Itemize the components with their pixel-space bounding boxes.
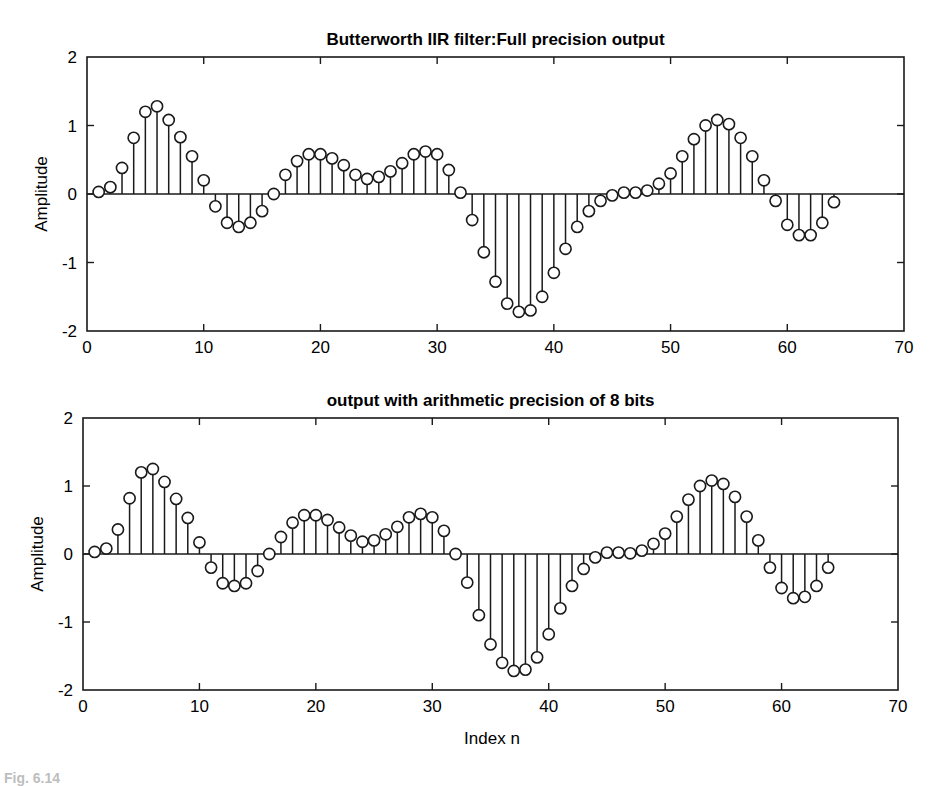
stem-marker: [264, 548, 275, 559]
stem-marker: [660, 528, 671, 539]
stem-marker: [268, 188, 279, 199]
stem-marker: [175, 132, 186, 143]
stem-marker: [729, 491, 740, 502]
stem-marker: [136, 467, 147, 478]
stem-marker: [345, 530, 356, 541]
x-tick-label: 30: [428, 338, 447, 357]
stem-marker: [159, 476, 170, 487]
stem-marker: [140, 106, 151, 117]
y-tick-label: 1: [64, 477, 73, 496]
stem-marker: [618, 187, 629, 198]
stem-marker: [520, 664, 531, 675]
stem-marker: [205, 562, 216, 573]
stem-marker: [245, 217, 256, 228]
x-tick-label: 40: [544, 338, 563, 357]
stem-marker: [198, 175, 209, 186]
y-tick-label: -2: [62, 322, 77, 341]
stem-marker: [782, 219, 793, 230]
x-tick-label: 20: [306, 697, 325, 716]
stem-marker: [630, 187, 641, 198]
stem-marker: [508, 665, 519, 676]
x-tick-label: 10: [194, 338, 213, 357]
stem-marker: [688, 134, 699, 145]
stem-marker: [467, 214, 478, 225]
stem-marker: [147, 463, 158, 474]
stem-marker: [105, 182, 116, 193]
stem-marker: [788, 593, 799, 604]
stem-marker: [531, 652, 542, 663]
stem-marker: [163, 114, 174, 125]
stem-marker: [403, 512, 414, 523]
stem-marker: [671, 511, 682, 522]
x-tick-label: 0: [78, 697, 87, 716]
stem-marker: [741, 511, 752, 522]
stem-marker: [327, 153, 338, 164]
stem-marker: [683, 494, 694, 505]
stem-marker: [397, 158, 408, 169]
x-tick-label: 30: [423, 697, 442, 716]
stem-marker: [462, 577, 473, 588]
stem-marker: [525, 305, 536, 316]
stem-marker: [583, 206, 594, 217]
stem-marker: [362, 173, 373, 184]
stem-marker: [443, 164, 454, 175]
stem-marker: [770, 195, 781, 206]
stem-marker: [513, 306, 524, 317]
stem-marker: [653, 178, 664, 189]
stem-marker: [642, 185, 653, 196]
stem-marker: [315, 149, 326, 160]
stem-marker: [747, 151, 758, 162]
stem-marker: [240, 578, 251, 589]
stem-marker: [438, 525, 449, 536]
stem-marker: [233, 221, 244, 232]
stem-marker: [420, 146, 431, 157]
stem-marker: [280, 169, 291, 180]
stem-marker: [128, 132, 139, 143]
stem-marker: [823, 562, 834, 573]
stem-marker: [385, 166, 396, 177]
stem-marker: [485, 639, 496, 650]
stem-marker: [124, 493, 135, 504]
stem-marker: [171, 493, 182, 504]
stem-marker: [648, 538, 659, 549]
stem-marker: [221, 217, 232, 228]
x-tick-label: 60: [772, 697, 791, 716]
stem-marker: [151, 101, 162, 112]
stem-marker: [275, 531, 286, 542]
stem-marker: [256, 206, 267, 217]
stem-marker: [368, 535, 379, 546]
stem-marker: [89, 546, 100, 557]
stem-marker: [373, 171, 384, 182]
y-tick-label: 0: [68, 185, 77, 204]
stem-marker: [252, 565, 263, 576]
stem-marker: [677, 151, 688, 162]
y-tick-label: -1: [58, 613, 73, 632]
stem-marker: [303, 149, 314, 160]
y-tick-label: -1: [62, 254, 77, 273]
stem-marker: [817, 217, 828, 228]
stem-marker: [455, 187, 466, 198]
stem-marker: [497, 657, 508, 668]
x-tick-label: 20: [311, 338, 330, 357]
stem-marker: [299, 510, 310, 521]
stem-marker: [625, 548, 636, 559]
stem-marker: [793, 230, 804, 241]
stem-marker: [694, 480, 705, 491]
stem-marker: [450, 548, 461, 559]
stem-marker: [427, 512, 438, 523]
stem-marker: [572, 221, 583, 232]
stem-marker: [799, 591, 810, 602]
stem-marker: [322, 514, 333, 525]
stem-marker: [560, 243, 571, 254]
stem-marker: [338, 160, 349, 171]
y-tick-label: 1: [68, 117, 77, 136]
stem-marker: [723, 119, 734, 130]
stem-marker: [217, 578, 228, 589]
stem-marker: [392, 521, 403, 532]
stem-marker: [291, 156, 302, 167]
stem-marker: [186, 151, 197, 162]
stem-marker: [210, 201, 221, 212]
stem-marker: [182, 512, 193, 523]
stem-marker: [595, 195, 606, 206]
stem-marker: [350, 169, 361, 180]
